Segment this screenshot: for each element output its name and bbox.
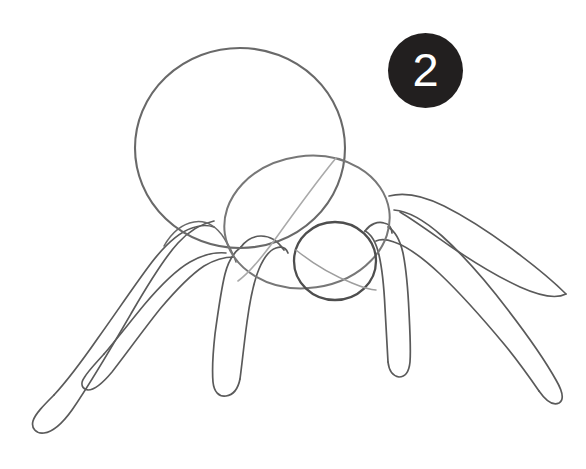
leg-front-left-inner-edge [240,247,288,379]
cephalothorax-construction-arc [238,158,336,281]
leg-front-left-outer-edge [213,247,241,396]
abdomen-circle [135,48,345,248]
head-circle [294,222,376,300]
leg-right-upper-bottom-edge [400,212,566,296]
drawing-canvas: 2 [0,0,586,469]
leg-right-inner-outer-edge [388,227,410,377]
leg-right-inner-inner-edge [365,231,388,362]
leg-left-outer-lower-edge [54,226,214,395]
leg-right-outer-lower-edge [376,240,539,391]
leg-right-upper-top-edge [389,194,566,294]
spider-drawing [0,0,586,469]
leg-right-outer-upper-edge [394,210,562,404]
step-number-badge: 2 [388,33,463,108]
step-number-label: 2 [412,46,438,93]
cephalothorax-ellipse [216,145,399,299]
head-construction-arc [296,250,376,290]
leg-left-outer-upper-edge [33,221,214,433]
leg-left-inner-upper-edge [82,257,234,390]
